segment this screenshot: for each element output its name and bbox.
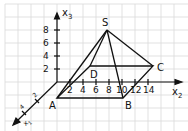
point-label-s: S <box>102 18 108 28</box>
x2-tick-10: 10 <box>116 86 127 95</box>
x2-tick-6: 6 <box>93 86 99 95</box>
x3-tick-8: 8 <box>43 26 49 35</box>
point-label-b: B <box>125 101 132 111</box>
x2-tick-14: 14 <box>143 86 154 95</box>
x2-tick-8: 8 <box>106 86 112 95</box>
x2-tick-12: 12 <box>130 86 141 95</box>
point-label-c: C <box>157 63 164 73</box>
pyramid-diagram: x3 x2 x1 2 4 6 8 2 4 6 8 10 12 14 2 4 S … <box>0 0 188 131</box>
x2-tick-2: 2 <box>67 86 73 95</box>
x3-tick-6: 6 <box>43 39 49 48</box>
x2-axis-label: x2 <box>172 87 182 100</box>
x3-tick-4: 4 <box>43 52 49 61</box>
point-label-a: A <box>49 101 56 111</box>
x3-axis-label: x3 <box>62 8 72 21</box>
point-label-d: D <box>90 70 98 80</box>
x3-tick-2: 2 <box>43 65 49 74</box>
x2-tick-4: 4 <box>80 86 86 95</box>
